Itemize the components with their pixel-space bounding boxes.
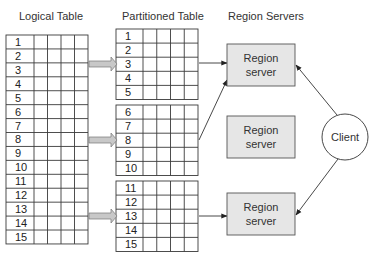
logical-table-row-14: 14 [15,217,27,229]
region-server-2-label-line1: Region [244,124,279,136]
partition-table-1: 12345 [116,29,198,100]
partition-2-row-8: 8 [125,134,131,146]
logical-table: 123456789101112131415 [6,35,88,244]
partition-3-row-15: 15 [125,238,137,250]
partition-1-row-3: 3 [125,58,131,70]
connector-client-server3 [296,159,338,215]
partition-arrow-2 [89,133,117,147]
logical-table-row-6: 6 [15,106,21,118]
region-server-1-label-line2: server [246,66,277,78]
partition-2-row-9: 9 [125,148,131,160]
partition-2-row-6: 6 [125,106,131,118]
region-server-3-label-line1: Region [244,201,279,213]
header-logical-table: Logical Table [19,10,83,22]
logical-table-row-13: 13 [15,203,27,215]
connector-client-server1 [296,65,337,115]
partition-3-row-14: 14 [125,224,137,236]
logical-table-row-10: 10 [15,161,27,173]
partition-table-2: 678910 [116,105,198,176]
partition-table-3: 1112131415 [116,181,198,252]
connector-partition2-server1 [199,80,227,140]
region-server-2: Region server [227,116,295,158]
partition-arrow-3 [89,209,117,223]
partition-3-row-12: 12 [125,196,137,208]
region-server-1: Region server [227,44,295,86]
header-partitioned-table: Partitioned Table [122,10,204,22]
partition-2-row-7: 7 [125,120,131,132]
client-node: Client [322,114,368,160]
partition-1-row-4: 4 [125,72,131,84]
partition-1-row-5: 5 [125,86,131,98]
logical-table-row-2: 2 [15,50,21,62]
region-server-3: Region server [227,193,295,235]
partition-arrow-1 [89,57,117,71]
partition-1-row-1: 1 [125,30,131,42]
region-server-1-label-line1: Region [244,52,279,64]
logical-table-row-1: 1 [15,36,21,48]
partition-2-row-10: 10 [125,162,137,174]
region-server-3-label-line2: server [246,215,277,227]
logical-table-row-15: 15 [15,231,27,243]
partition-1-row-2: 2 [125,44,131,56]
partition-3-row-13: 13 [125,210,137,222]
logical-table-row-9: 9 [15,147,21,159]
logical-table-row-8: 8 [15,133,21,145]
logical-table-row-3: 3 [15,64,21,76]
logical-table-row-12: 12 [15,189,27,201]
logical-table-row-5: 5 [15,92,21,104]
region-server-2-label-line2: server [246,138,277,150]
logical-table-row-4: 4 [15,78,21,90]
header-region-servers: Region Servers [228,10,304,22]
logical-table-row-11: 11 [15,175,26,187]
client-label: Client [331,131,359,143]
logical-table-row-7: 7 [15,120,21,132]
partition-3-row-11: 11 [125,182,136,194]
hbase-architecture-diagram: Logical Table Partitioned Table Region S… [0,0,371,260]
